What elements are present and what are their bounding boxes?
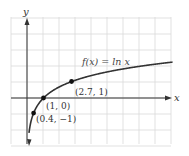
ln-graph: x y f(x) = ln x (2.7, 1) (1, 0) (0.4, −1… xyxy=(0,0,189,156)
data-point xyxy=(41,96,46,101)
function-label: f(x) = ln x xyxy=(81,56,130,67)
y-axis-label: y xyxy=(22,6,29,17)
curve-end-arrow-icon xyxy=(27,139,32,146)
data-point xyxy=(69,79,74,84)
x-axis-label: x xyxy=(174,92,180,103)
grid xyxy=(11,17,171,146)
point-label-0-4-neg1: (0.4, −1) xyxy=(36,114,76,124)
point-label-2-7-1: (2.7, 1) xyxy=(75,87,108,97)
point-label-1-0: (1, 0) xyxy=(46,101,70,111)
y-axis-arrow-icon xyxy=(25,18,30,25)
